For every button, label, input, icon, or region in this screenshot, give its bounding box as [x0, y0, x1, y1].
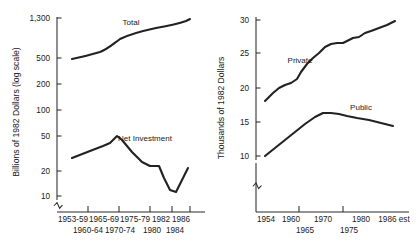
left-x-label-upper: 1986 — [172, 215, 191, 224]
left-x-label-lower: 1970-74 — [105, 226, 135, 235]
right-x-label-lower: 1965 — [296, 226, 315, 235]
series-label-public: Public — [350, 103, 372, 112]
series-label-private: Private — [288, 56, 313, 65]
right-y-tick-label: 10 — [240, 152, 250, 161]
left-y-tick-label: 10 — [41, 192, 51, 201]
series-line-public — [265, 113, 393, 156]
right-x-label-upper: 1960 — [282, 215, 301, 224]
right-y-tick-label: 25 — [240, 49, 250, 58]
left-chart-panel: Billions of 1982 Dollars (log scale) 1,3… — [0, 0, 209, 249]
series-label-net-investment: Net Investment — [118, 134, 173, 143]
right-y-tick-label: 15 — [240, 118, 250, 127]
left-x-label-upper: 1982 — [152, 215, 171, 224]
right-y-tick-label: 20 — [240, 84, 250, 93]
series-line-private — [265, 21, 395, 101]
right-axis-break-symbol — [253, 183, 261, 189]
left-x-label-lower: 1980 — [143, 226, 162, 235]
right-x-label-upper: 1980 — [352, 215, 371, 224]
left-y-tick-label: 50 — [41, 132, 51, 141]
left-x-label-upper: 1953-59 — [58, 215, 88, 224]
right-y-tick-label: 30 — [240, 16, 250, 25]
left-y-tick-label: 200 — [36, 80, 50, 89]
left-x-label-lower: 1984 — [166, 226, 185, 235]
two-panel-line-chart-figure: Billions of 1982 Dollars (log scale) 1,3… — [0, 0, 418, 249]
left-y-tick-label: 20 — [41, 167, 51, 176]
left-x-label-upper: 1965-69 — [89, 215, 119, 224]
right-y-axis-title: Thousands of 1982 Dollars — [216, 57, 226, 160]
left-x-label-upper: 1975-79 — [120, 215, 150, 224]
right-x-label-upper: 1986 est — [378, 215, 410, 224]
right-x-label-lower: 1975 — [340, 226, 359, 235]
right-chart-panel: Thousands of 1982 Dollars 30 25 20 15 10 — [209, 0, 418, 249]
left-y-tick-label: 1,300 — [30, 14, 51, 23]
left-x-label-lower: 1960-64 — [73, 226, 103, 235]
series-line-net-investment — [72, 136, 188, 192]
left-y-axis-title: Billions of 1982 Dollars (log scale) — [11, 47, 21, 177]
left-axis-break-symbol — [54, 203, 62, 209]
left-y-tick-label: 500 — [36, 54, 50, 63]
series-label-total: Total — [123, 18, 140, 27]
right-x-label-upper: 1954 — [257, 215, 276, 224]
right-x-label-upper: 1970 — [314, 215, 333, 224]
left-y-tick-label: 100 — [36, 106, 50, 115]
